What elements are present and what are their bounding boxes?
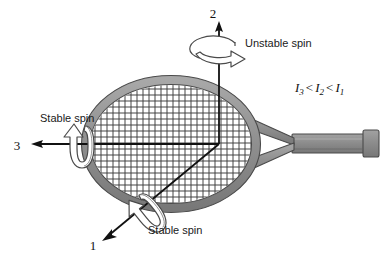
stable-spin-label-left: Stable spin xyxy=(40,112,94,124)
inertia-subscript-2: 2 xyxy=(320,87,325,97)
inertia-operator-1: < xyxy=(306,80,313,95)
racket-butt-cap xyxy=(363,130,379,157)
inertia-inequality: I3<I2<I1 xyxy=(294,80,344,97)
racket-axes-diagram: 1 2 3 Unstable spin Stable spin Stable s… xyxy=(0,0,390,261)
racket-handle xyxy=(292,134,364,153)
figure-canvas: 1 2 3 Unstable spin Stable spin Stable s… xyxy=(0,0,390,261)
axis-2-label: 2 xyxy=(210,6,217,21)
spin-arrow-stable-axis-3 xyxy=(64,124,94,168)
stable-spin-label-bottom: Stable spin xyxy=(148,224,202,236)
spin-arrow-unstable-axis-2 xyxy=(190,36,245,67)
axis-1-label: 1 xyxy=(90,238,97,253)
inertia-subscript-1: 1 xyxy=(340,87,345,97)
inertia-operator-2: < xyxy=(326,80,333,95)
axis-3-label: 3 xyxy=(14,138,21,153)
unstable-spin-label: Unstable spin xyxy=(245,37,312,49)
inertia-subscript-3: 3 xyxy=(298,87,304,97)
